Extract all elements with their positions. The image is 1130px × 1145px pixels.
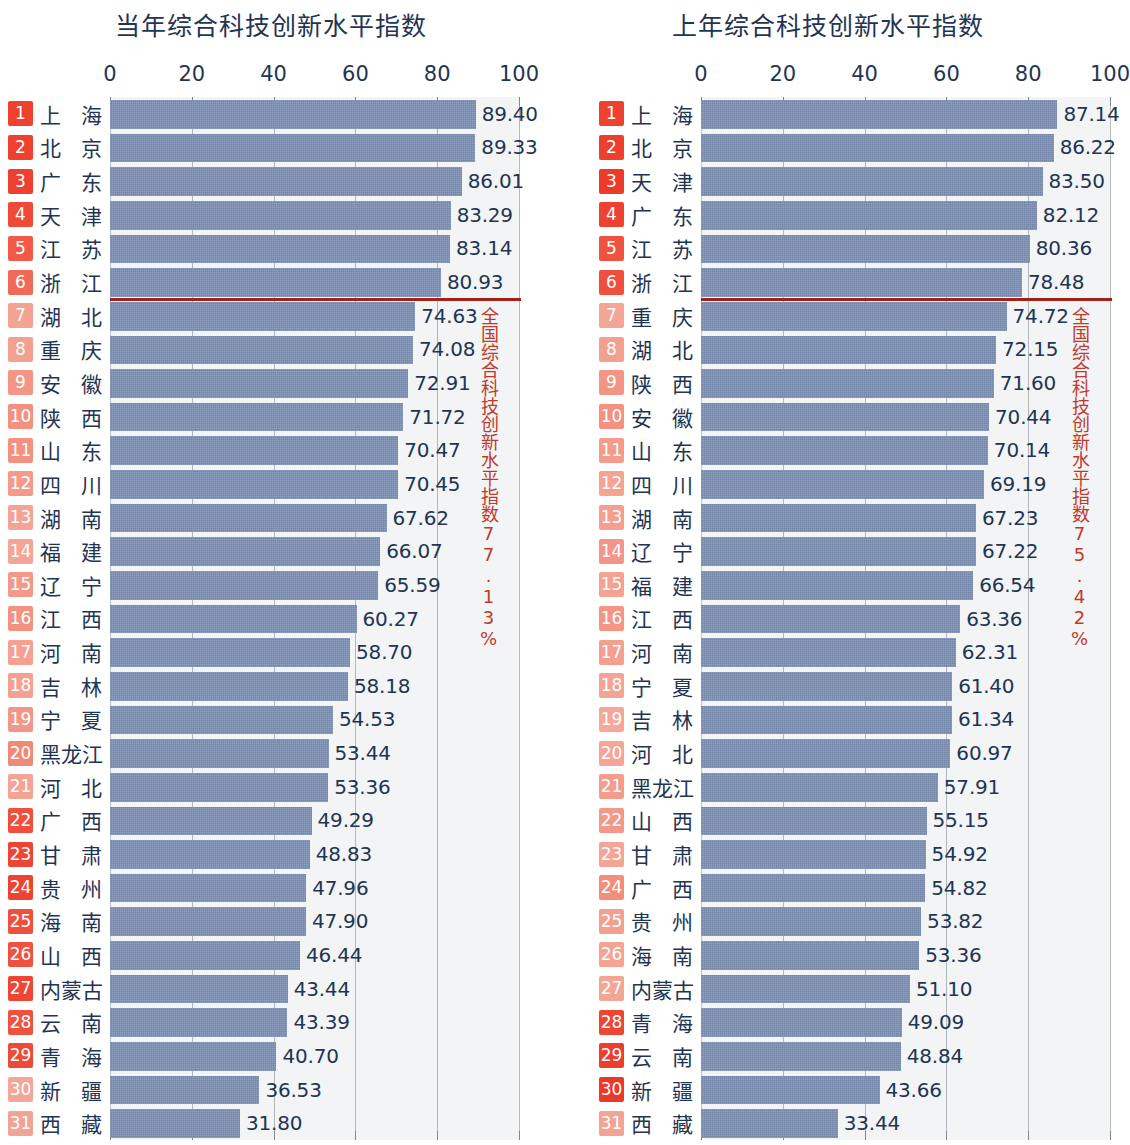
category-label-row: 30新疆	[8, 1073, 102, 1107]
bar	[110, 605, 357, 634]
axis-tick-label: 80	[1015, 62, 1042, 86]
rank-badge: 12	[8, 471, 33, 496]
axis-tick-mark	[437, 1131, 438, 1140]
bar-value-label: 80.36	[1036, 236, 1092, 260]
bar-value-label: 69.19	[990, 472, 1046, 496]
rank-badge: 8	[8, 337, 33, 362]
province-label: 辽宁	[631, 536, 693, 566]
category-label-row: 12四川	[599, 467, 693, 501]
category-label-row: 7湖北	[8, 299, 102, 333]
category-label-row: 30新疆	[599, 1073, 693, 1107]
bar	[701, 638, 956, 667]
bar-value-label: 86.01	[468, 169, 524, 193]
rank-badge: 3	[599, 169, 624, 194]
category-label-row: 17河南	[8, 635, 102, 669]
bar-value-label: 53.44	[335, 741, 391, 765]
category-label-row: 15福建	[599, 568, 693, 602]
bar	[110, 470, 398, 499]
bar	[110, 941, 300, 970]
province-label: 黑龙江	[631, 772, 693, 802]
bar	[110, 840, 310, 869]
bar-value-label: 36.53	[265, 1078, 321, 1102]
province-label: 河南	[631, 637, 693, 667]
bar-value-label: 83.14	[456, 236, 512, 260]
national-average-annotation: 全国综合科技创新水平指数77.13%	[479, 307, 497, 649]
bar	[701, 840, 926, 869]
province-label: 广东	[631, 200, 693, 230]
bar-value-label: 47.90	[312, 909, 368, 933]
rank-badge: 5	[8, 236, 33, 261]
bar	[110, 1076, 259, 1105]
category-label-row: 9安徽	[8, 366, 102, 400]
axis-tick-label: 60	[342, 62, 369, 86]
province-label: 陕西	[631, 368, 693, 398]
bar-value-label: 71.72	[409, 405, 465, 429]
bar-value-label: 43.39	[293, 1010, 349, 1034]
province-label: 四川	[40, 469, 102, 499]
category-label-row: 14福建	[8, 534, 102, 568]
province-label: 浙江	[40, 267, 102, 297]
rank-badge: 21	[8, 774, 33, 799]
bar-value-label: 67.23	[982, 506, 1038, 530]
bar-value-label: 67.62	[393, 506, 449, 530]
rank-badge: 9	[8, 370, 33, 395]
category-label-row: 5江苏	[8, 232, 102, 266]
rank-badge: 23	[8, 842, 33, 867]
bar	[701, 1076, 880, 1105]
rank-badge: 25	[599, 909, 624, 934]
bar	[110, 1042, 276, 1071]
rank-badge: 26	[8, 942, 33, 967]
rank-badge: 24	[8, 875, 33, 900]
bar-value-label: 49.09	[908, 1010, 964, 1034]
bar	[701, 706, 952, 735]
category-label-row: 23甘肃	[8, 837, 102, 871]
province-label: 贵州	[40, 873, 102, 903]
axis-tick-mark	[1028, 1131, 1029, 1140]
bar	[110, 436, 398, 465]
gridline	[1110, 97, 1111, 1140]
province-label: 湖北	[631, 334, 693, 364]
bar-value-label: 70.14	[994, 438, 1050, 462]
category-label-row: 13湖南	[8, 501, 102, 535]
bar	[701, 336, 996, 365]
bar	[701, 672, 952, 701]
category-label-row: 15辽宁	[8, 568, 102, 602]
category-label-row: 11山东	[599, 433, 693, 467]
bar	[110, 672, 348, 701]
bar-value-label: 58.18	[354, 674, 410, 698]
province-label: 新疆	[631, 1075, 693, 1105]
bar	[701, 134, 1054, 163]
axis-tick-label: 0	[103, 62, 116, 86]
bar-value-label: 54.53	[339, 707, 395, 731]
axis-tick-label: 100	[1090, 62, 1130, 86]
category-label-row: 23甘肃	[599, 837, 693, 871]
province-label: 吉林	[40, 671, 102, 701]
bar-value-label: 70.44	[995, 405, 1051, 429]
rank-badge: 8	[599, 337, 624, 362]
category-label-row: 24广西	[599, 871, 693, 905]
province-label: 山西	[40, 940, 102, 970]
rank-badge: 1	[8, 101, 33, 126]
province-label: 新疆	[40, 1075, 102, 1105]
bar-value-label: 53.36	[334, 775, 390, 799]
bar	[701, 403, 989, 432]
province-label: 广东	[40, 166, 102, 196]
bar	[701, 436, 988, 465]
axis-tick-label: 80	[424, 62, 451, 86]
bar-value-label: 70.45	[404, 472, 460, 496]
category-label-row: 26山西	[8, 938, 102, 972]
bar-value-label: 78.48	[1028, 270, 1084, 294]
category-label-row: 20黑龙江	[8, 736, 102, 770]
axis-tick-mark	[1110, 1131, 1111, 1140]
bar	[701, 1109, 838, 1138]
province-label: 湖北	[40, 301, 102, 331]
bar	[110, 907, 306, 936]
bar	[110, 201, 451, 230]
category-label-row: 18吉林	[8, 669, 102, 703]
rank-badge: 9	[599, 370, 624, 395]
rank-badge: 17	[599, 640, 624, 665]
bar-value-label: 43.66	[886, 1078, 942, 1102]
category-label-row: 2北京	[599, 131, 693, 165]
category-label-row: 14辽宁	[599, 534, 693, 568]
rank-badge: 4	[8, 202, 33, 227]
